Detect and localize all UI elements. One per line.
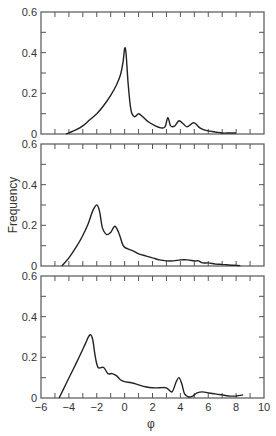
y-axis-label: Frequency: [6, 177, 20, 234]
x-tick-label: 8: [233, 401, 239, 413]
plot-frame: [41, 276, 264, 398]
frequency-chart-figure: 00.20.40.600.20.40.600.20.40.6−6−4−20246…: [0, 0, 276, 436]
frequency-curve: [59, 335, 243, 398]
y-tick-label: 0.6: [22, 138, 37, 150]
panel-bottom: 00.20.40.6−6−4−20246810: [22, 270, 270, 413]
y-tick-label: 0.4: [22, 311, 37, 323]
panel-top: 00.20.40.6: [22, 6, 264, 140]
x-tick-label: 0: [122, 401, 128, 413]
y-tick-label: 0.6: [22, 6, 37, 18]
x-tick-label: −2: [90, 401, 103, 413]
y-tick-label: 0.2: [22, 351, 37, 363]
x-axis-label: φ: [147, 417, 155, 431]
plot-frame: [41, 12, 264, 134]
frequency-curve: [62, 205, 240, 266]
y-tick-label: 0.6: [22, 270, 37, 282]
y-tick-label: 0.2: [22, 87, 37, 99]
x-tick-label: 10: [258, 401, 270, 413]
y-tick-label: 0.4: [22, 179, 37, 191]
x-tick-label: 6: [205, 401, 211, 413]
x-tick-label: 2: [149, 401, 155, 413]
x-tick-label: −4: [63, 401, 76, 413]
plot-frame: [41, 144, 264, 266]
panel-middle: 00.20.40.6: [22, 138, 264, 272]
y-tick-label: 0.2: [22, 219, 37, 231]
y-tick-label: 0.4: [22, 47, 37, 59]
frequency-curve: [66, 48, 236, 134]
x-tick-label: −6: [35, 401, 48, 413]
x-tick-label: 4: [177, 401, 183, 413]
